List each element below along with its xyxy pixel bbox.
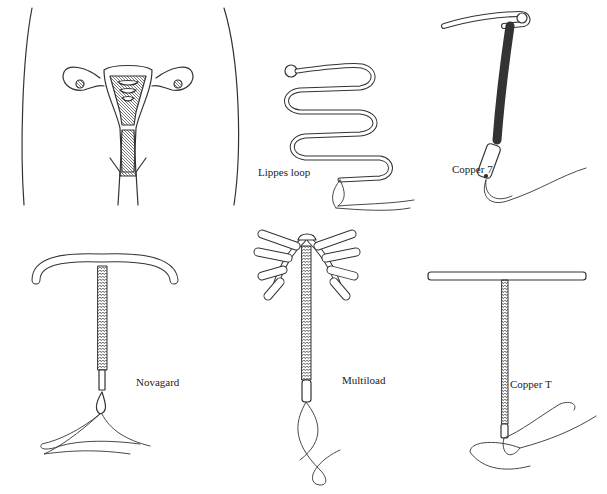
multiload-illustration <box>258 234 356 485</box>
copper-7-label: Copper 7 <box>452 163 493 175</box>
novagard-illustration <box>36 258 174 454</box>
copper-t-label: Copper T <box>510 378 552 390</box>
novagard-label: Novagard <box>136 376 179 388</box>
lippes-loop-illustration <box>285 65 414 210</box>
iud-diagram <box>0 0 607 494</box>
multiload-label: Multiload <box>342 374 385 386</box>
lippes-loop-label: Lippes loop <box>258 166 310 178</box>
uterus-anatomy-illustration <box>22 8 239 205</box>
copper-t-illustration <box>428 272 596 469</box>
